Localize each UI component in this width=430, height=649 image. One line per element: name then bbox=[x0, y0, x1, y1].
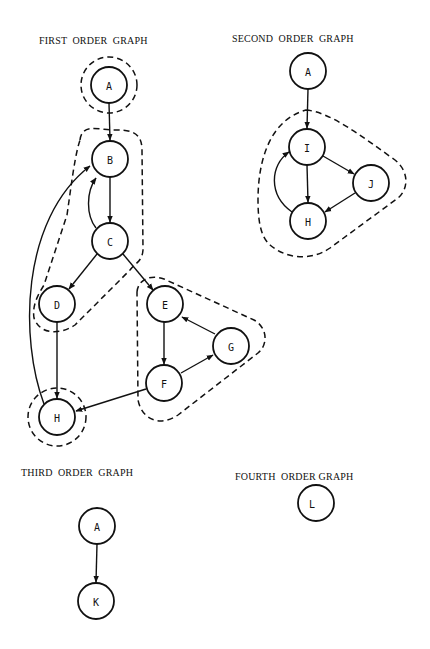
edge-a-b bbox=[109, 103, 110, 140]
edge-c-e bbox=[123, 254, 153, 290]
edge-i-h bbox=[307, 165, 308, 202]
node-first-c: C bbox=[92, 223, 128, 259]
node-third-k: K bbox=[78, 583, 114, 619]
edge-c-d bbox=[69, 254, 97, 289]
node-first-f: F bbox=[146, 365, 182, 401]
edge-f-g bbox=[181, 355, 213, 373]
node-second-h: H bbox=[290, 203, 326, 239]
node-first-a: A bbox=[91, 67, 127, 103]
svg-text:J: J bbox=[368, 179, 374, 190]
svg-text:I: I bbox=[304, 143, 310, 154]
node-first-e: E bbox=[147, 286, 183, 322]
node-first-b: B bbox=[92, 141, 128, 177]
node-second-a: A bbox=[290, 53, 326, 89]
svg-text:E: E bbox=[162, 300, 168, 311]
fourth-graph-nodes: L bbox=[298, 485, 334, 521]
svg-text:F: F bbox=[161, 379, 167, 390]
node-second-i: I bbox=[289, 129, 325, 165]
edge-i-j bbox=[323, 156, 354, 174]
svg-text:L: L bbox=[309, 499, 315, 510]
node-first-d: D bbox=[39, 286, 75, 322]
svg-text:C: C bbox=[107, 237, 113, 248]
node-first-h: H bbox=[39, 399, 75, 435]
edge-f-h bbox=[76, 389, 146, 411]
edge-j-h bbox=[325, 193, 355, 212]
node-third-a: A bbox=[79, 508, 115, 544]
node-fourth-l: L bbox=[298, 485, 334, 521]
second-graph-nodes: A I J H bbox=[289, 53, 389, 239]
svg-text:H: H bbox=[305, 217, 311, 228]
svg-text:K: K bbox=[93, 597, 99, 608]
first-graph-nodes: A B C D E G F H bbox=[39, 67, 249, 435]
svg-text:G: G bbox=[228, 342, 234, 353]
edge-g-e bbox=[182, 317, 215, 334]
third-graph-edges bbox=[96, 544, 97, 582]
graph-canvas: A B C D E G F H A I J H A K L bbox=[0, 0, 430, 649]
node-second-j: J bbox=[353, 165, 389, 201]
edge-c-b bbox=[89, 178, 97, 228]
svg-text:A: A bbox=[106, 81, 112, 92]
svg-text:A: A bbox=[94, 522, 100, 533]
svg-text:A: A bbox=[305, 67, 311, 78]
svg-text:H: H bbox=[54, 413, 60, 424]
node-first-g: G bbox=[213, 328, 249, 364]
edge-a-i bbox=[307, 89, 308, 128]
svg-text:D: D bbox=[54, 300, 60, 311]
edge-a-k bbox=[96, 544, 97, 582]
edge-h-b bbox=[30, 166, 90, 404]
svg-text:B: B bbox=[107, 155, 113, 166]
edge-h-i bbox=[274, 152, 292, 212]
